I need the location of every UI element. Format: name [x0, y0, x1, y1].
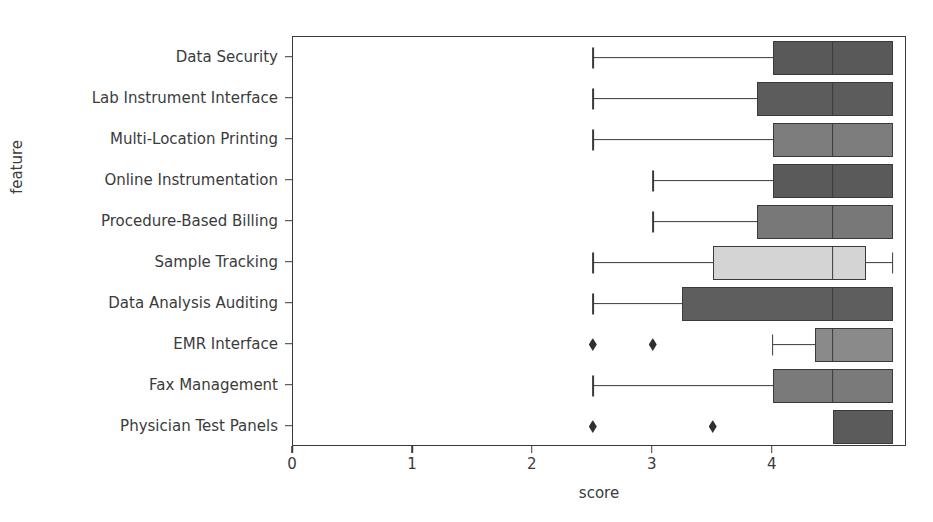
whisker-low-line: [593, 385, 773, 387]
y-tick-mark: [285, 261, 292, 263]
x-tick-label: 0: [287, 455, 297, 473]
plot-area: [292, 36, 906, 446]
y-tick-mark: [285, 179, 292, 181]
whisker-high-cap: [892, 252, 894, 273]
whisker-low-cap: [772, 334, 774, 355]
whisker-low-cap: [592, 129, 594, 150]
x-tick-mark: [531, 446, 533, 453]
y-tick-label: Procedure-Based Billing: [101, 212, 278, 230]
x-tick-mark: [651, 446, 653, 453]
y-tick-mark: [285, 343, 292, 345]
y-tick-mark: [285, 220, 292, 222]
y-tick-mark: [285, 97, 292, 99]
whisker-low-cap: [592, 293, 594, 314]
y-tick-label: Data Security: [176, 48, 278, 66]
y-tick-label: Fax Management: [149, 376, 278, 394]
whisker-low-cap: [592, 252, 594, 273]
median-line: [832, 164, 834, 198]
whisker-low-line: [593, 303, 682, 305]
y-tick-mark: [285, 56, 292, 58]
y-tick-mark: [285, 302, 292, 304]
median-line: [832, 328, 834, 362]
x-axis-title: score: [292, 484, 906, 502]
box: [833, 410, 893, 444]
whisker-low-line: [593, 98, 757, 100]
whisker-low-cap: [592, 88, 594, 109]
whisker-low-cap: [652, 211, 654, 232]
y-tick-label: EMR Interface: [173, 335, 278, 353]
x-tick-label: 1: [407, 455, 417, 473]
whisker-low-line: [593, 57, 773, 59]
box: [815, 328, 893, 362]
box: [757, 82, 893, 116]
y-axis-title: feature: [8, 107, 26, 227]
x-tick-mark: [291, 446, 293, 453]
whisker-low-line: [653, 180, 773, 182]
x-tick-mark: [771, 446, 773, 453]
median-line: [832, 246, 834, 280]
y-tick-label: Sample Tracking: [155, 253, 278, 271]
median-line: [832, 287, 834, 321]
x-tick-mark: [411, 446, 413, 453]
whisker-low-cap: [592, 47, 594, 68]
outlier-marker: [589, 338, 597, 351]
y-tick-label: Online Instrumentation: [104, 171, 278, 189]
box-plot-figure: feature score Data SecurityLab Instrumen…: [0, 0, 933, 522]
whisker-low-line: [773, 344, 815, 346]
y-tick-mark: [285, 425, 292, 427]
whisker-low-line: [593, 262, 713, 264]
median-line: [832, 82, 834, 116]
x-tick-label: 4: [767, 455, 777, 473]
x-tick-label: 2: [527, 455, 537, 473]
whisker-low-line: [593, 139, 773, 141]
median-line: [832, 123, 834, 157]
y-tick-label: Physician Test Panels: [120, 417, 278, 435]
y-tick-label: Multi-Location Printing: [110, 130, 278, 148]
box: [713, 246, 867, 280]
y-tick-mark: [285, 138, 292, 140]
median-line: [832, 205, 834, 239]
median-line: [832, 369, 834, 403]
y-tick-label: Data Analysis Auditing: [108, 294, 278, 312]
outlier-marker: [589, 420, 597, 433]
whisker-high-line: [866, 262, 892, 264]
whisker-low-cap: [652, 170, 654, 191]
outlier-marker: [649, 338, 657, 351]
median-line: [832, 41, 834, 75]
x-tick-label: 3: [647, 455, 657, 473]
box: [757, 205, 893, 239]
y-tick-mark: [285, 384, 292, 386]
outlier-marker: [709, 420, 717, 433]
whisker-low-cap: [592, 375, 594, 396]
box: [682, 287, 893, 321]
y-tick-label: Lab Instrument Interface: [92, 89, 278, 107]
whisker-low-line: [653, 221, 757, 223]
